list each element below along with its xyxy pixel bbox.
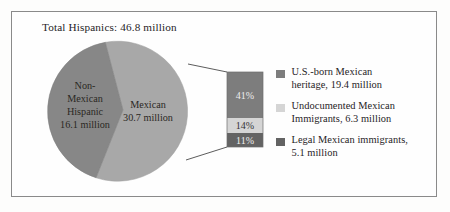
bar-label-undocumented-percent: 14% (236, 120, 254, 131)
legend-swatch-icon-legal (276, 138, 285, 147)
pie-label-mexican-value: 30.7 million (123, 112, 173, 123)
legend-label-legal: Legal Mexican immigrants, 5.1 million (292, 134, 408, 159)
legend-label-us-born-line1: U.S.-born Mexican (292, 66, 383, 79)
bar-label-legal-percent: 11% (236, 135, 254, 146)
chart-legend: U.S.-born Mexican heritage, 19.4 million… (276, 66, 434, 169)
bar-label-us-born-percent: 41% (236, 90, 254, 101)
callout-line-bottom (186, 147, 227, 160)
callout-line-top (188, 64, 227, 72)
legend-label-undocumented-line2: Immigrants, 6.3 million (292, 113, 395, 126)
legend-label-us-born-line2: heritage, 19.4 million (292, 79, 383, 92)
legend-item-legal[interactable]: Legal Mexican immigrants, 5.1 million (276, 134, 434, 159)
callout-connectors (186, 64, 227, 160)
legend-item-undocumented[interactable]: Undocumented Mexican Immigrants, 6.3 mil… (276, 100, 434, 125)
legend-swatch-icon-undocumented (276, 104, 285, 113)
legend-label-undocumented: Undocumented Mexican Immigrants, 6.3 mil… (292, 100, 395, 125)
breakout-stacked-bar: 41% 14% 11% (227, 72, 263, 147)
legend-item-us-born[interactable]: U.S.-born Mexican heritage, 19.4 million (276, 66, 434, 91)
legend-label-legal-line2: 5.1 million (292, 147, 408, 160)
legend-label-us-born: U.S.-born Mexican heritage, 19.4 million (292, 66, 383, 91)
pie-chart: Mexican 30.7 million Non- Mexican Hispan… (48, 41, 188, 181)
pie-label-non-mexican-line1: Non- (75, 80, 97, 91)
legend-label-legal-line1: Legal Mexican immigrants, (292, 134, 408, 147)
pie-label-non-mexican-line3: Hispanic (67, 106, 104, 117)
pie-label-mexican-name: Mexican (130, 99, 166, 110)
pie-label-non-mexican-line2: Mexican (67, 93, 103, 104)
figure-container: Total Hispanics: 46.8 million Mexican 30… (0, 0, 450, 212)
legend-label-undocumented-line1: Undocumented Mexican (292, 100, 395, 113)
pie-label-non-mexican-value: 16.1 million (60, 119, 110, 130)
legend-swatch-icon-us-born (276, 70, 285, 79)
